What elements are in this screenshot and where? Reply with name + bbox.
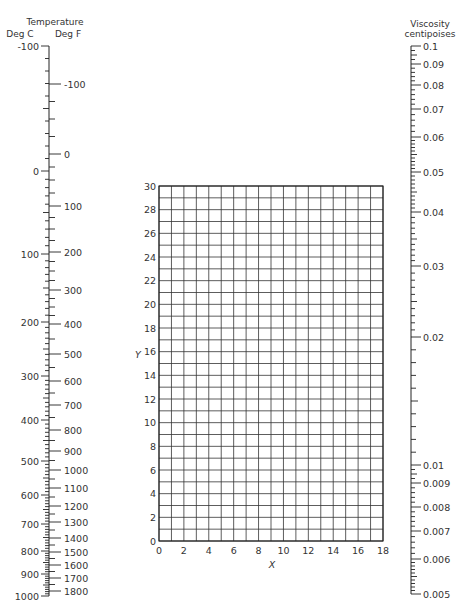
y-tick-label: 12 [144, 394, 156, 405]
deg-f-tick-label: 500 [64, 349, 82, 360]
deg-c-tick-label: 700 [21, 519, 39, 530]
y-tick-label: 8 [150, 441, 156, 452]
y-tick-label: 16 [144, 346, 156, 357]
viscosity-title: Viscosity [410, 19, 450, 29]
deg-f-label: Deg F [55, 29, 81, 39]
deg-c-tick-label: 800 [21, 546, 39, 557]
y-tick-label: 28 [144, 204, 156, 215]
viscosity-unit: centipoises [405, 29, 456, 39]
viscosity-tick-label: 0.008 [423, 502, 450, 513]
deg-f-tick-label: 100 [64, 201, 82, 212]
deg-f-tick-label: 1800 [64, 586, 88, 597]
viscosity-tick-label: 0.009 [423, 478, 450, 489]
deg-f-tick-label: 1100 [64, 483, 88, 494]
deg-f-tick-label: 0 [64, 149, 70, 160]
deg-f-tick-label: 1000 [64, 465, 88, 476]
viscosity-tick-label: 0.09 [423, 59, 444, 70]
x-tick-label: 14 [327, 545, 339, 556]
viscosity-tick-label: 0.05 [423, 167, 444, 178]
deg-c-tick-label: 300 [21, 371, 39, 382]
y-tick-label: 26 [144, 228, 156, 239]
viscosity-tick-label: 0.04 [423, 207, 444, 218]
deg-f-tick-label: 1500 [64, 547, 88, 558]
deg-f-tick-label: 200 [64, 247, 82, 258]
y-tick-label: 4 [150, 488, 156, 499]
deg-f-tick-label: 1600 [64, 560, 88, 571]
y-tick-label: 30 [144, 181, 156, 192]
deg-c-tick-label: 500 [21, 456, 39, 467]
x-tick-label: 6 [231, 545, 237, 556]
deg-f-tick-label: 1400 [64, 533, 88, 544]
viscosity-tick-label: 0.06 [423, 132, 444, 143]
x-tick-label: 4 [206, 545, 212, 556]
y-tick-label: 2 [150, 512, 156, 523]
y-tick-label: 24 [144, 252, 156, 263]
y-tick-label: 18 [144, 323, 156, 334]
x-tick-label: 0 [156, 545, 162, 556]
deg-f-tick-label: 800 [64, 425, 82, 436]
deg-f-tick-label: 900 [64, 446, 82, 457]
viscosity-tick-label: 0.08 [423, 80, 444, 91]
x-tick-label: 10 [277, 545, 289, 556]
xy-grid: 0246810121416180246810121416182022242628… [144, 181, 389, 557]
viscosity-tick-label: 0.07 [423, 104, 444, 115]
deg-f-tick-label: -100 [64, 79, 86, 90]
deg-c-tick-label: -100 [17, 41, 39, 52]
temperature-title: Temperature [25, 17, 83, 27]
y-tick-label: 20 [144, 299, 156, 310]
x-tick-label: 12 [302, 545, 314, 556]
viscosity-tick-label: 0.005 [423, 589, 450, 600]
y-axis-label: Y [135, 349, 142, 360]
x-tick-label: 8 [256, 545, 262, 556]
x-axis-label: X [268, 559, 276, 570]
deg-f-tick-label: 1700 [64, 573, 88, 584]
y-tick-label: 14 [144, 370, 156, 381]
viscosity-tick-label: 0.007 [423, 526, 450, 537]
deg-c-tick-label: 100 [21, 249, 39, 260]
deg-c-tick-label: 900 [21, 569, 39, 580]
deg-c-tick-label: 200 [21, 317, 39, 328]
viscosity-nomograph: Temperature Deg C Deg F -100010020030040… [0, 0, 464, 614]
temperature-axis: -10001002003004005006007008009001000-100… [15, 41, 88, 602]
deg-f-tick-label: 700 [64, 400, 82, 411]
deg-c-label: Deg C [6, 29, 33, 39]
deg-c-tick-label: 400 [21, 415, 39, 426]
y-tick-label: 0 [150, 536, 156, 547]
deg-c-tick-label: 0 [33, 166, 39, 177]
deg-f-tick-label: 400 [64, 319, 82, 330]
y-tick-label: 10 [144, 417, 156, 428]
y-tick-label: 6 [150, 465, 156, 476]
deg-f-tick-label: 1200 [64, 501, 88, 512]
y-tick-label: 22 [144, 275, 156, 286]
viscosity-axis: 0.10.090.080.070.060.050.040.030.020.010… [411, 41, 450, 600]
x-tick-label: 18 [377, 545, 389, 556]
viscosity-tick-label: 0.01 [423, 460, 444, 471]
x-tick-label: 16 [352, 545, 364, 556]
x-tick-label: 2 [181, 545, 187, 556]
deg-c-tick-label: 600 [21, 490, 39, 501]
viscosity-tick-label: 0.03 [423, 261, 444, 272]
viscosity-tick-label: 0.1 [423, 41, 438, 52]
deg-f-tick-label: 1300 [64, 517, 88, 528]
deg-f-tick-label: 300 [64, 285, 82, 296]
deg-c-tick-label: 1000 [15, 591, 39, 602]
viscosity-tick-label: 0.02 [423, 332, 444, 343]
viscosity-tick-label: 0.006 [423, 554, 450, 565]
deg-f-tick-label: 600 [64, 376, 82, 387]
